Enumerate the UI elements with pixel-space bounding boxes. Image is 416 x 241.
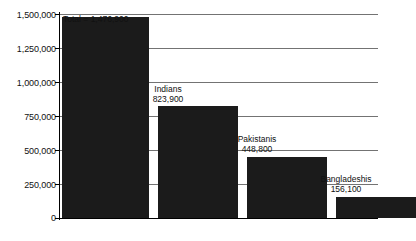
bar-annotation-total: Total = 1,476,900 xyxy=(63,14,128,24)
y-axis-tick-label: 1,000,000 xyxy=(0,79,56,88)
y-axis-tick-label: 750,000 xyxy=(0,113,56,122)
y-axis-tick-label: 500,000 xyxy=(0,147,56,156)
bar-annotation-bangladeshis: Bangladeshis 156,100 xyxy=(296,174,396,194)
y-axis-tick-label: 1,500,000 xyxy=(0,11,56,20)
y-axis-tick-label: 250,000 xyxy=(0,181,56,190)
y-axis-tick-label: 0 xyxy=(0,214,56,223)
bar-annotation-bangladeshis-value: 156,100 xyxy=(296,184,396,194)
bar-annotation-indians-value: 823,900 xyxy=(118,94,218,104)
bar-annotation-indians: Indians 823,900 xyxy=(118,84,218,104)
y-axis-tick-label: 1,250,000 xyxy=(0,45,56,54)
bar-annotation-pakistanis-name: Pakistanis xyxy=(207,134,307,144)
bar-indians xyxy=(158,106,238,218)
bar-bangladeshis xyxy=(336,197,416,218)
bar-annotation-indians-name: Indians xyxy=(118,84,218,94)
bar-total xyxy=(62,17,149,218)
bar-annotation-pakistanis: Pakistanis 448,800 xyxy=(207,134,307,154)
bar-annotation-bangladeshis-name: Bangladeshis xyxy=(296,174,396,184)
gridline-baseline xyxy=(59,218,378,219)
bar-annotation-pakistanis-value: 448,800 xyxy=(207,144,307,154)
bar-annotation-total-text: Total = 1,476,900 xyxy=(63,14,128,24)
